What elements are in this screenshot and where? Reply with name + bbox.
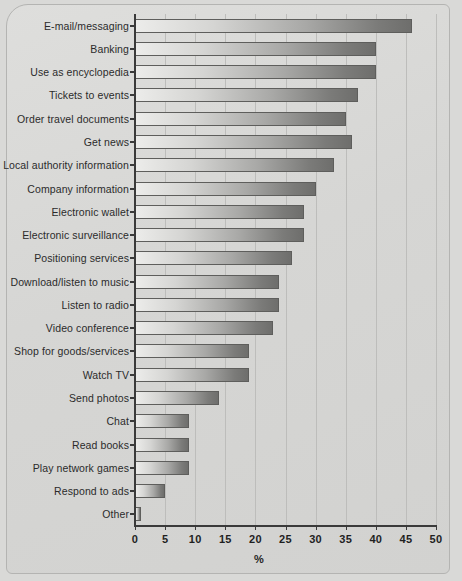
bar: [135, 275, 279, 289]
y-tick: [130, 304, 135, 306]
x-axis-title: %: [0, 553, 462, 565]
x-axis-title-text: %: [254, 553, 264, 565]
bar-row: [135, 507, 436, 521]
bar-row: [135, 484, 436, 498]
bar: [135, 344, 249, 358]
category-label: Electronic wallet: [51, 206, 129, 218]
bar-row: [135, 461, 436, 475]
x-tick-10: [195, 525, 196, 530]
bar: [135, 251, 292, 265]
y-tick: [130, 48, 135, 50]
x-tick-label-5: 5: [162, 533, 168, 545]
category-label: Other: [102, 508, 129, 520]
bar-row: [135, 135, 436, 149]
category-label: Download/listen to music: [10, 276, 129, 288]
y-tick: [130, 281, 135, 283]
plot-area: [135, 14, 436, 526]
category-label: Watch TV: [83, 369, 129, 381]
bar: [135, 414, 189, 428]
bar: [135, 19, 412, 33]
x-tick-40: [376, 525, 377, 530]
y-tick: [130, 141, 135, 143]
x-tick-35: [346, 525, 347, 530]
y-axis-line: [134, 14, 136, 526]
bar: [135, 112, 346, 126]
x-tick-25: [286, 525, 287, 530]
x-tick-20: [255, 525, 256, 530]
bar-row: [135, 344, 436, 358]
bar: [135, 484, 165, 498]
bar: [135, 65, 376, 79]
bar: [135, 42, 376, 56]
y-tick: [130, 513, 135, 515]
bar: [135, 368, 249, 382]
bar: [135, 88, 358, 102]
y-tick: [130, 374, 135, 376]
x-tick-label-45: 45: [399, 533, 412, 545]
bar-row: [135, 182, 436, 196]
bar-row: [135, 158, 436, 172]
bar-row: [135, 298, 436, 312]
category-label: Read books: [72, 439, 129, 451]
bar-row: [135, 438, 436, 452]
y-tick: [130, 71, 135, 73]
bar: [135, 158, 334, 172]
bar-row: [135, 88, 436, 102]
x-tick-label-15: 15: [219, 533, 232, 545]
y-tick: [130, 397, 135, 399]
x-tick-label-0: 0: [132, 533, 138, 545]
y-tick: [130, 164, 135, 166]
bar: [135, 205, 304, 219]
category-axis-labels: E-mail/messagingBankingUse as encycloped…: [0, 14, 129, 526]
y-tick: [130, 350, 135, 352]
bar-row: [135, 368, 436, 382]
bar: [135, 182, 316, 196]
bar-row: [135, 112, 436, 126]
bar: [135, 228, 304, 242]
x-tick-45: [406, 525, 407, 530]
y-tick: [130, 118, 135, 120]
bar: [135, 321, 273, 335]
chart-figure: E-mail/messagingBankingUse as encycloped…: [0, 0, 462, 581]
category-label: Listen to radio: [62, 299, 129, 311]
category-label: Send photos: [69, 392, 129, 404]
bar-row: [135, 321, 436, 335]
bar-row: [135, 65, 436, 79]
category-label: Order travel documents: [17, 113, 129, 125]
category-label: Use as encyclopedia: [30, 66, 129, 78]
bar: [135, 461, 189, 475]
bar-row: [135, 19, 436, 33]
category-label: Positioning services: [34, 252, 129, 264]
bar-row: [135, 205, 436, 219]
category-label: Company information: [27, 183, 129, 195]
category-label: Shop for goods/services: [14, 345, 129, 357]
y-tick: [130, 490, 135, 492]
y-tick: [130, 257, 135, 259]
y-tick: [130, 420, 135, 422]
category-label: Get news: [84, 136, 129, 148]
bar-row: [135, 251, 436, 265]
x-tick-50: [436, 525, 437, 530]
y-tick: [130, 327, 135, 329]
category-label: E-mail/messaging: [44, 20, 129, 32]
bar-row: [135, 414, 436, 428]
y-tick: [130, 467, 135, 469]
bar: [135, 135, 352, 149]
y-tick: [130, 94, 135, 96]
bar-row: [135, 42, 436, 56]
bar: [135, 438, 189, 452]
category-label: Tickets to events: [49, 89, 129, 101]
category-label: Chat: [106, 415, 129, 427]
y-tick: [130, 188, 135, 190]
x-tick-label-30: 30: [309, 533, 322, 545]
x-tick-label-50: 50: [430, 533, 443, 545]
gridline-50: [436, 14, 437, 526]
x-tick-label-35: 35: [339, 533, 352, 545]
bar: [135, 391, 219, 405]
bar: [135, 298, 279, 312]
x-tick-5: [165, 525, 166, 530]
x-tick-label-25: 25: [279, 533, 292, 545]
y-tick: [130, 211, 135, 213]
category-label: Local authority information: [3, 159, 129, 171]
x-tick-label-20: 20: [249, 533, 262, 545]
